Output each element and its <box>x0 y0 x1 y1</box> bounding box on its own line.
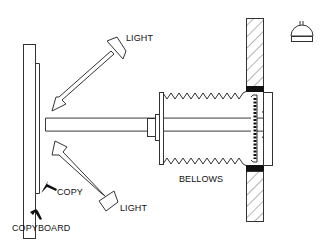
label-light-bottom: LIGHT <box>120 204 147 213</box>
light-top-beam-arrow <box>52 51 114 111</box>
light-top <box>52 37 126 111</box>
label-copyboard: COPYBOARD <box>12 224 70 233</box>
label-light-top: LIGHT <box>126 34 153 43</box>
safelight-dome-lamp-icon <box>291 21 313 42</box>
lens-board <box>160 93 164 165</box>
label-bellows: BELLOWS <box>179 175 223 184</box>
diagram-svg <box>0 0 328 246</box>
lens <box>148 115 160 141</box>
copyboard <box>24 45 36 239</box>
diagram-canvas: LIGHT LIGHT COPY COPYBOARD BELLOWS <box>0 0 328 246</box>
copy-pointer-arrow-icon <box>41 181 57 193</box>
copy-sheet <box>36 64 40 194</box>
label-copy: COPY <box>57 188 83 197</box>
light-bottom <box>52 141 118 211</box>
